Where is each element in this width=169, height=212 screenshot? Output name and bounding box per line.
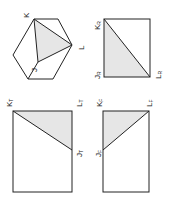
label-j: J <box>30 68 39 72</box>
label-k-r: KR <box>93 21 102 30</box>
diagram-canvas: K L J KR JR LR KT LT JT KF LF JF <box>0 0 169 212</box>
label-k: K <box>22 12 31 18</box>
label-l-t: LT <box>75 99 84 107</box>
label-l-r: LR <box>154 71 163 79</box>
label-j-t: JT <box>75 150 84 157</box>
label-l-f: LF <box>145 99 154 107</box>
hexagon-figure: K L J <box>13 12 86 79</box>
label-j-r: JR <box>93 71 102 79</box>
label-k-f: KF <box>95 99 104 107</box>
label-j-f: JF <box>94 150 103 157</box>
label-k-t: KT <box>5 99 14 107</box>
label-l: L <box>77 45 86 50</box>
rect-f-figure: KF LF JF <box>94 99 154 192</box>
rect-r-figure: KR JR LR <box>93 19 163 79</box>
rect-t-figure: KT LT JT <box>5 99 84 192</box>
